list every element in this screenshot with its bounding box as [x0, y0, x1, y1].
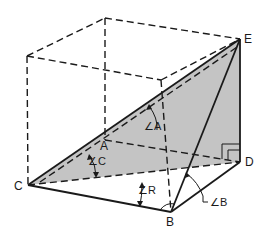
angle-label-B: ∠B: [210, 196, 227, 208]
angle-label-A: ∠A: [144, 120, 162, 132]
label-B: B: [166, 215, 174, 229]
label-C: C: [14, 179, 23, 193]
label-D: D: [245, 155, 254, 169]
angle-label-C: ∠C: [88, 155, 106, 167]
label-A: A: [100, 139, 108, 153]
geometry-figure: E D C B A ∠A ∠C ∠R ∠B: [0, 0, 266, 243]
label-E: E: [244, 32, 252, 46]
diagram-canvas: E D C B A ∠A ∠C ∠R ∠B: [0, 0, 266, 243]
angle-label-R: ∠R: [138, 184, 156, 196]
